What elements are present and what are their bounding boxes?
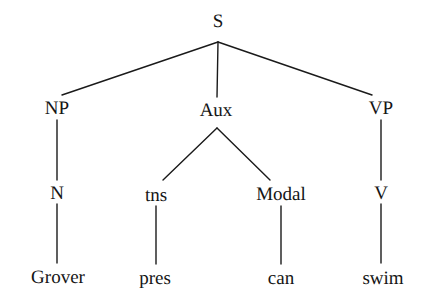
node-modal: Modal [256,185,306,204]
node-np: NP [45,99,69,118]
leaf-pres: pres [139,269,171,288]
edge-aux-modal [217,128,270,180]
node-vp: VP [369,99,393,118]
edge-s-np [62,42,218,95]
node-aux: Aux [200,101,233,120]
node-v: V [374,184,388,203]
edge-s-vp [218,42,372,95]
leaf-can: can [268,269,294,288]
node-n: N [50,184,64,203]
tree-edges-layer [0,0,434,301]
leaf-swim: swim [362,269,403,288]
edge-s-aux [217,42,218,97]
leaf-grover: Grover [31,268,85,287]
node-tns: tns [145,186,167,205]
node-s: S [213,12,224,31]
edge-aux-tns [163,128,217,180]
syntax-tree-figure: S NP Aux VP N tns Modal V Grover pres ca… [0,0,434,301]
